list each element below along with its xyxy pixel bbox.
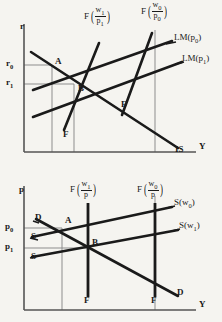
curve-is: [31, 52, 178, 148]
economics-two-panel-figure: r Y r0 r1 A B F F IS LM(p0) LM(p1) F ( w…: [0, 0, 222, 322]
curve-label-lm-p1: LM(p1): [182, 54, 209, 65]
bottom-point-b-label: B: [92, 238, 98, 247]
bottom-d-left-label: D: [35, 213, 42, 222]
curve-lm-p1: [33, 62, 182, 117]
top-x-axis-label: Y: [199, 142, 206, 151]
bottom-x-axis-label: Y: [199, 300, 206, 309]
bottom-s-upper-label: S: [31, 232, 36, 241]
paren-close: ): [164, 4, 167, 19]
bottom-d-right-label: D: [177, 288, 184, 297]
fraction-w1-p: w1 p: [81, 180, 92, 200]
tick-label-r1: r1: [6, 78, 13, 89]
paren-open: (: [144, 182, 147, 197]
curve-label-f-w1p1: F ( w1 p1 ): [84, 6, 111, 28]
fraction-w0-p0: w0 p0: [152, 1, 163, 23]
paren-close: ): [160, 182, 163, 197]
fraction-denominator: p: [148, 191, 159, 199]
curve-label-s-w0: S(w0): [174, 198, 195, 209]
tick-label-p1: p1: [5, 242, 13, 253]
curve-label-s-w1: S(w1): [179, 221, 200, 232]
top-y-axis-label: r: [20, 22, 24, 31]
figure-canvas: [0, 0, 222, 322]
bottom-f-right-label: F: [151, 296, 157, 305]
paren-close: ): [93, 182, 96, 197]
top-point-b-label: B: [78, 84, 84, 93]
f-char: F: [141, 7, 146, 16]
fraction-denominator: p0: [152, 12, 163, 22]
f-char: F: [137, 185, 142, 194]
curve-label-lm-p0: LM(p0): [174, 33, 201, 44]
f-char: F: [70, 185, 75, 194]
tick-label-p0: p0: [5, 222, 13, 233]
curve-label-f-w1p: F ( w1 p ): [70, 180, 97, 200]
bottom-s-lower-label: S: [31, 252, 36, 261]
bottom-point-a-label: A: [65, 216, 72, 225]
curve-s-w0: [32, 207, 172, 237]
curve-d: [36, 219, 178, 296]
top-f-right-label: F: [121, 100, 127, 109]
fraction-denominator: p1: [95, 17, 106, 27]
bottom-y-axis-label: p: [19, 185, 24, 194]
curve-label-f-w0p: F ( w0 p ): [137, 180, 164, 200]
bottom-f-left-label: F: [84, 296, 90, 305]
top-point-a-label: A: [55, 57, 62, 66]
tick-label-r0: r0: [6, 59, 13, 70]
fraction-denominator: p: [81, 191, 92, 199]
f-char: F: [84, 12, 89, 21]
fraction-w0-p: w0 p: [148, 180, 159, 200]
fraction-w1-p1: w1 p1: [95, 6, 106, 28]
paren-close: ): [107, 9, 110, 24]
curve-label-f-w0p0: F ( w0 p0 ): [141, 1, 168, 23]
curve-label-is: IS: [175, 145, 184, 154]
paren-open: (: [77, 182, 80, 197]
top-panel-group: [24, 24, 196, 152]
paren-open: (: [91, 9, 94, 24]
paren-open: (: [148, 4, 151, 19]
bottom-panel-group: [24, 186, 196, 310]
top-f-left-label: F: [63, 130, 69, 139]
